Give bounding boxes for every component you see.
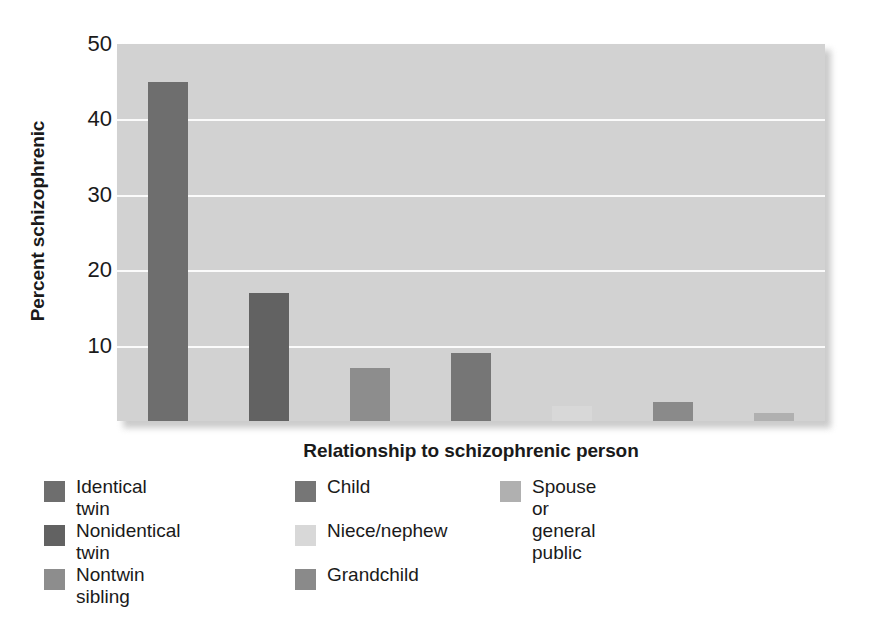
y-tick-label-30: 30 — [66, 184, 112, 206]
legend-label: Child — [327, 476, 370, 498]
bar-4 — [552, 406, 592, 421]
gridline-40 — [117, 119, 825, 121]
legend-swatch-icon — [44, 525, 65, 546]
bar-6 — [754, 413, 794, 421]
y-tick-label-10: 10 — [66, 335, 112, 357]
gridline-10 — [117, 346, 825, 348]
legend-swatch-icon — [295, 569, 316, 590]
legend-swatch-icon — [44, 569, 65, 590]
bar-2 — [350, 368, 390, 421]
bar-chart-figure: Percent schizophrenic 5040302010 Relatio… — [0, 0, 877, 630]
plot-area — [117, 44, 825, 421]
y-tick-label-20: 20 — [66, 259, 112, 281]
legend-swatch-icon — [44, 481, 65, 502]
y-axis-title: Percent schizophrenic — [27, 71, 49, 371]
bar-1 — [249, 293, 289, 421]
bar-3 — [451, 353, 491, 421]
legend-label: Spouse or general public — [532, 476, 596, 563]
legend: Identical twinNonidentical twinNontwin s… — [0, 478, 877, 628]
x-axis-title: Relationship to schizophrenic person — [117, 440, 825, 462]
y-axis-tick-labels: 5040302010 — [66, 30, 112, 426]
y-tick-label-40: 40 — [66, 108, 112, 130]
legend-label: Nontwin sibling — [76, 564, 145, 608]
bar-0 — [148, 82, 188, 421]
legend-label: Grandchild — [327, 564, 419, 586]
legend-label: Niece/nephew — [327, 520, 447, 542]
legend-label: Identical twin — [76, 476, 147, 520]
y-tick-label-50: 50 — [66, 33, 112, 55]
gridline-20 — [117, 270, 825, 272]
legend-swatch-icon — [295, 481, 316, 502]
bar-5 — [653, 402, 693, 421]
gridline-30 — [117, 195, 825, 197]
legend-swatch-icon — [295, 525, 316, 546]
legend-label: Nonidentical twin — [76, 520, 181, 564]
legend-swatch-icon — [500, 481, 521, 502]
